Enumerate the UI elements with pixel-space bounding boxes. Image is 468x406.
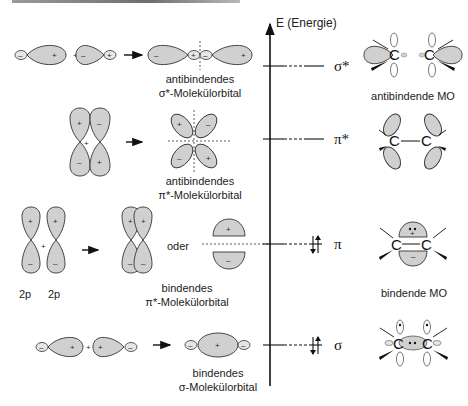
svg-text:+: + [77,119,82,128]
sigma-star-row: – + + – + – + – + antibindendes σ*-Molek… [15,41,252,99]
svg-text:–: – [77,158,82,167]
svg-text:C: C [421,132,432,149]
svg-text:C: C [393,335,404,352]
sigma-star-mo: – + – + [148,41,252,70]
level-symbol: σ [334,337,342,353]
svg-text:–: – [128,343,133,352]
svg-text:C: C [389,132,400,149]
energy-axis: E (Energie) [270,16,337,386]
svg-text:–: – [97,119,102,128]
cc-sigma-structure: C C [379,320,448,366]
sp-orbital-right-bonding: + – [93,337,137,356]
svg-text:–: – [128,259,133,268]
pi-star-mo: + – – + [167,110,232,172]
svg-text:–: – [18,51,23,60]
sp-orbital-left-bonding: – + [36,337,83,356]
plus-sign: + [86,343,91,352]
svg-text:–: – [177,154,182,163]
svg-text:C: C [389,46,400,63]
axis-label: E (Energie) [276,16,337,30]
svg-text:–: – [39,343,44,352]
level-pi-star: π* [263,131,349,147]
svg-text:+: + [52,51,57,60]
pi-row: + – + + – 2p 2p + + – – oder + – [19,207,268,308]
2p-orbital-left: + – [22,207,40,273]
svg-text:–: – [141,259,146,268]
or-label: oder [167,240,189,252]
caption-pi-1: bindendes [162,282,213,294]
label-2p-2: 2p [48,288,60,300]
caption-pi-star-1: antibindendes [166,175,235,187]
svg-text:C: C [421,236,432,253]
svg-text:+: + [97,158,102,167]
sigma-mo: – + – [185,333,250,357]
svg-text:–: – [241,341,246,350]
pi-mo-halves: + – [202,219,268,269]
svg-text:C: C [391,236,402,253]
svg-text:+: + [177,120,182,129]
cc-pi-star-structure: C C [379,111,446,172]
level-symbol: σ* [334,58,350,74]
sp-orbital-left: – + [15,45,66,64]
svg-text:+: + [128,217,133,226]
svg-text:+: + [206,154,211,163]
svg-text:+: + [141,217,146,226]
pi-star-row: + – + – + + – – + antibindendes π*-Molek… [70,108,242,201]
level-sigma-star: σ* [263,58,350,74]
caption-sigma-star-2: σ*-Molekülorbital [159,87,242,99]
level-pi: π [263,235,342,254]
cc-pi-structure: + – C C [379,222,447,266]
svg-text:–: – [81,51,86,60]
plus-sign-2: + [84,139,89,148]
svg-text:+: + [241,51,246,60]
svg-text:+: + [70,343,75,352]
2p-orbital-right: + – [47,207,65,273]
svg-text:–: – [411,252,416,261]
p-orbital-right: – + [90,108,110,176]
svg-text:–: – [203,51,208,60]
caption-pi-2: π*-Molekülorbital [145,296,228,308]
svg-text:+: + [98,343,103,352]
svg-text:–: – [28,259,33,268]
plus-sign: + [41,242,46,251]
pi-mo-overlap: + + – – [122,207,152,273]
caption-sigma-1: bindendes [193,367,244,379]
svg-text:+: + [53,217,58,226]
label-antibonding-mo: antibindende MO [371,90,455,102]
svg-text:C: C [424,46,435,63]
svg-text:–: – [206,120,211,129]
svg-text:–: – [188,341,193,350]
label-bonding-mo: bindende MO [381,287,447,299]
caption-sigma-2: σ-Molekülorbital [179,381,257,393]
mo-diagram: – + + – + – + – + antibindendes σ*-Molek… [0,0,468,406]
svg-text:–: – [226,256,231,265]
svg-text:C: C [422,335,433,352]
sigma-row: – + + + – – + – bindendes σ-Molekülorbit… [36,333,257,393]
cc-sigma-star-structure: C C [364,33,462,77]
svg-text:+: + [226,225,231,234]
svg-text:–: – [154,51,159,60]
svg-text:+: + [107,51,112,60]
level-symbol: π* [334,131,349,147]
caption-sigma-star-1: antibindendes [166,73,235,85]
caption-pi-star-2: π*-Molekülorbital [158,189,241,201]
level-symbol: π [334,236,342,252]
svg-text:+: + [191,51,196,60]
svg-text:+: + [215,341,220,350]
svg-text:–: – [53,259,58,268]
sp-orbital-right: – + [76,45,116,64]
svg-text:+: + [410,229,415,238]
label-2p-1: 2p [19,288,31,300]
svg-text:+: + [28,217,33,226]
level-sigma: σ [263,336,342,355]
